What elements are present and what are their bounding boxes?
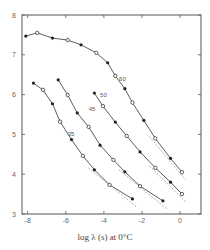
data-point (106, 61, 109, 64)
data-point (32, 81, 35, 84)
data-point (154, 166, 157, 169)
chart-plot: -8-6-4-20345678 60504535 (0, 0, 210, 230)
data-point (125, 134, 128, 137)
curve-45: 45 (57, 78, 167, 209)
data-point (114, 74, 117, 77)
data-point (142, 119, 145, 122)
data-point (36, 31, 39, 34)
data-point (79, 43, 82, 46)
x-tick-label: -2 (139, 217, 145, 224)
x-axis-label: log λ (s) at 0°C (0, 232, 210, 242)
y-tick-label: 5 (12, 131, 16, 138)
data-point (101, 104, 104, 107)
data-point (41, 88, 44, 91)
y-tick-label: 7 (12, 51, 16, 58)
data-point (169, 181, 172, 184)
data-point (138, 150, 141, 153)
curve-label: 45 (89, 106, 96, 112)
data-point (81, 154, 84, 157)
data-point (112, 158, 115, 161)
y-tick-label: 4 (12, 171, 16, 178)
data-point (93, 91, 96, 94)
data-point (57, 78, 60, 81)
y-tick-label: 8 (12, 12, 16, 19)
data-point (87, 125, 90, 128)
data-point (161, 199, 164, 202)
data-point (123, 87, 126, 90)
data-point (66, 38, 69, 41)
data-point (51, 36, 54, 39)
data-point (58, 120, 61, 123)
curve-label: 60 (119, 76, 126, 82)
x-tick-label: -6 (63, 217, 69, 224)
x-tick-label: -8 (25, 217, 31, 224)
data-point (138, 184, 141, 187)
data-point (108, 183, 111, 186)
data-point (154, 137, 157, 140)
data-point (180, 171, 183, 174)
data-curves: 60504535 (24, 31, 186, 209)
data-point (70, 138, 73, 141)
axis-ticks: -8-6-4-20345678 (12, 12, 201, 225)
data-point (169, 157, 172, 160)
x-tick-label: -4 (101, 217, 107, 224)
curve-60: 60 (24, 31, 186, 180)
data-point (98, 144, 101, 147)
data-point (76, 111, 79, 114)
data-point (114, 120, 117, 123)
y-tick-label: 3 (12, 211, 16, 218)
data-point (123, 170, 126, 173)
data-point (51, 102, 54, 105)
data-point (180, 192, 183, 195)
curve-35: 35 (32, 81, 137, 206)
data-point (93, 168, 96, 171)
curve-label: 35 (68, 131, 75, 137)
data-point (131, 197, 134, 200)
data-point (66, 93, 69, 96)
data-point (24, 34, 27, 37)
data-point (131, 101, 134, 104)
data-point (95, 51, 98, 54)
axes-frame (22, 15, 201, 214)
x-tick-label: 0 (178, 217, 182, 224)
curve-label: 50 (100, 92, 107, 98)
y-tick-label: 6 (12, 91, 16, 98)
